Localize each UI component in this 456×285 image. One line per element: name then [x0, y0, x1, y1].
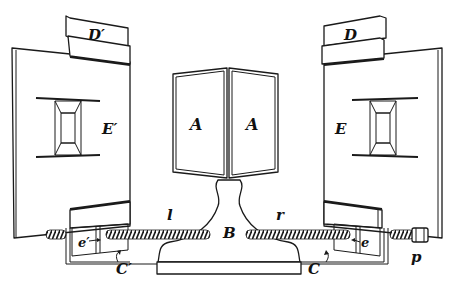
center-mirror-a-a: [173, 68, 278, 178]
label-r: r: [276, 206, 285, 224]
apparatus-diagram: D′ E′ D E: [0, 0, 456, 285]
label-e-small: e: [361, 235, 369, 250]
label-c-prime: C′: [116, 260, 132, 278]
label-e-prime-small: e′: [78, 235, 90, 250]
label-c: C: [308, 260, 320, 278]
label-l: l: [167, 206, 173, 224]
label-d-prime: D′: [87, 26, 105, 44]
knob-p: [412, 228, 428, 242]
label-a-right: A: [244, 115, 258, 134]
label-e-prime: E′: [101, 120, 117, 138]
label-p: p: [411, 248, 422, 266]
label-d: D: [343, 26, 357, 44]
label-a-left: A: [188, 115, 202, 134]
label-e: E: [334, 120, 347, 138]
label-b: B: [222, 224, 236, 242]
